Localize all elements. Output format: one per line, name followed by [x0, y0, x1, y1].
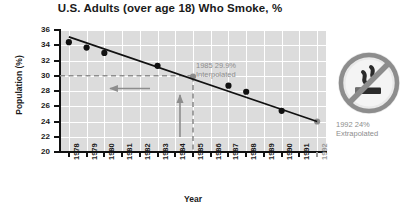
- y-tick-label: 34: [28, 40, 50, 49]
- y-tick: [54, 29, 60, 31]
- annotation-interpolated-line2: Interpolated: [196, 70, 236, 79]
- x-tick: [210, 152, 212, 157]
- x-tick-label: 1984: [178, 143, 187, 160]
- annotation-interpolated-line1: 1985 29.9%: [196, 61, 236, 70]
- y-tick-label: 22: [28, 132, 50, 141]
- data-point: [66, 39, 72, 45]
- y-tick: [54, 75, 60, 77]
- x-tick: [245, 152, 247, 157]
- y-tick-label: 24: [28, 117, 50, 126]
- x-tick-label: 1985: [196, 143, 205, 160]
- x-tick-label: 1988: [249, 143, 258, 160]
- y-tick: [54, 151, 60, 153]
- x-tick: [192, 152, 194, 157]
- y-tick: [54, 60, 60, 62]
- y-tick: [54, 121, 60, 123]
- y-tick-label: 28: [28, 86, 50, 95]
- x-tick-label: 1979: [90, 143, 99, 160]
- x-tick-label: 1981: [125, 143, 134, 160]
- y-tick-label: 20: [28, 147, 50, 156]
- x-tick-label: 1980: [107, 143, 116, 160]
- annotation-extrapolated-line2: Extrapolated: [336, 129, 378, 138]
- annotation-extrapolated-line1: 1992 24%: [336, 120, 378, 129]
- x-tick: [121, 152, 123, 157]
- x-tick: [103, 152, 105, 157]
- y-tick-label: 26: [28, 101, 50, 110]
- x-tick-label: 1978: [72, 143, 81, 160]
- x-tick-label: 1989: [267, 143, 276, 160]
- y-tick: [54, 90, 60, 92]
- x-tick-label: 1987: [231, 143, 240, 160]
- y-tick: [54, 44, 60, 46]
- x-tick-label: 1982: [143, 143, 152, 160]
- y-tick-label: 30: [28, 71, 50, 80]
- no-smoking-icon: [337, 51, 401, 115]
- x-tick: [263, 152, 265, 157]
- x-axis-title: Year: [60, 194, 326, 204]
- x-tick-label: 1992: [320, 143, 329, 160]
- x-tick-label: 1991: [302, 143, 311, 160]
- x-tick: [281, 152, 283, 157]
- x-tick: [139, 152, 141, 157]
- data-point: [101, 50, 107, 56]
- x-tick: [174, 152, 176, 157]
- x-tick: [68, 152, 70, 157]
- x-tick: [157, 152, 159, 157]
- x-tick-label: 1986: [214, 143, 223, 160]
- data-point: [225, 83, 231, 89]
- x-tick: [298, 152, 300, 157]
- annotation-extrapolated: 1992 24% Extrapolated: [336, 120, 378, 138]
- y-tick: [54, 136, 60, 138]
- x-tick: [227, 152, 229, 157]
- trend-line: [69, 37, 317, 122]
- x-tick-label: 1983: [161, 143, 170, 160]
- x-tick: [316, 152, 318, 157]
- annotation-interpolated: 1985 29.9% Interpolated: [196, 61, 236, 79]
- y-tick-label: 36: [28, 25, 50, 34]
- smoking-trend-chart: U.S. Adults (over age 18) Who Smoke, % P…: [0, 0, 413, 210]
- x-tick: [86, 152, 88, 157]
- y-tick-label: 32: [28, 56, 50, 65]
- y-tick: [54, 105, 60, 107]
- data-point: [84, 44, 90, 50]
- data-point: [243, 89, 249, 95]
- x-tick-label: 1990: [285, 143, 294, 160]
